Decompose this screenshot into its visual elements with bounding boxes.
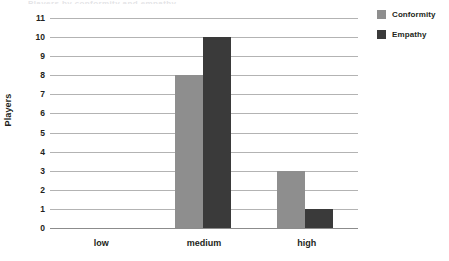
bar-series-container <box>50 18 358 228</box>
y-tick-label-7: 7 <box>40 90 45 99</box>
y-tick-label-9: 9 <box>40 52 45 61</box>
x-tick-label-medium: medium <box>187 238 222 248</box>
y-tick-label-10: 10 <box>36 33 45 42</box>
legend-label: Empathy <box>392 30 427 39</box>
bar-group-low <box>50 18 153 228</box>
clipped-chart-title: Players by conformity and empathy <box>28 0 198 4</box>
x-tick-label-high: high <box>297 238 316 248</box>
y-tick-label-5: 5 <box>40 128 45 137</box>
bar-group-medium <box>153 18 256 228</box>
legend-swatch-icon <box>377 10 386 19</box>
chart-legend: ConformityEmpathy <box>377 10 447 50</box>
plot-area: 11109876543210 <box>50 18 358 228</box>
bar-high-empathy[interactable] <box>305 209 333 228</box>
bar-medium-empathy[interactable] <box>203 37 231 228</box>
y-tick-label-1: 1 <box>40 205 45 214</box>
bar-group-high <box>255 18 358 228</box>
y-tick-label-3: 3 <box>40 166 45 175</box>
legend-item-conformity[interactable]: Conformity <box>377 10 447 19</box>
legend-swatch-icon <box>377 30 386 39</box>
y-tick-label-11: 11 <box>36 14 45 23</box>
y-tick-label-4: 4 <box>40 147 45 156</box>
bar-chart-figure: Players by conformity and empathy Player… <box>0 0 449 261</box>
y-tick-label-0: 0 <box>40 224 45 233</box>
bar-medium-conformity[interactable] <box>175 75 203 228</box>
legend-item-empathy[interactable]: Empathy <box>377 30 447 39</box>
x-tick-label-low: low <box>94 238 109 248</box>
gridline-0 <box>50 228 358 229</box>
bar-high-conformity[interactable] <box>277 171 305 228</box>
y-axis-title: Players <box>3 80 13 140</box>
y-tick-label-6: 6 <box>40 109 45 118</box>
legend-label: Conformity <box>392 10 436 19</box>
y-tick-label-2: 2 <box>40 186 45 195</box>
y-tick-label-8: 8 <box>40 71 45 80</box>
